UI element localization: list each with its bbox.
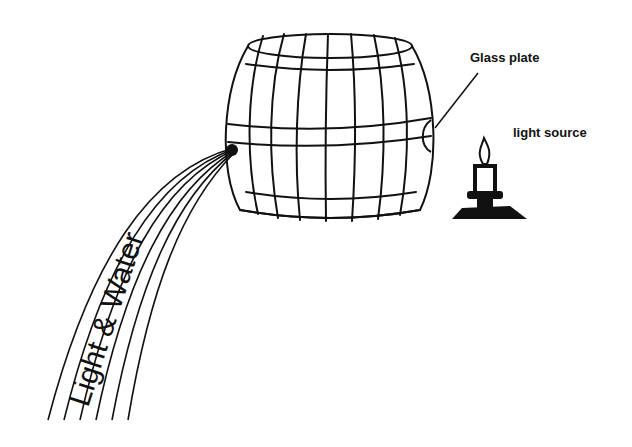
candle-icon xyxy=(452,138,527,219)
light-source-label: light source xyxy=(513,125,587,140)
stream-origin xyxy=(226,144,238,156)
barrel-top-hoop xyxy=(246,64,414,70)
barrel xyxy=(226,34,434,221)
barrel-bottom-hoop xyxy=(246,192,416,199)
barrel-top-rim xyxy=(248,34,412,58)
glass-plate-pointer-line xyxy=(435,73,478,128)
barrel-mid-hoop-upper xyxy=(228,118,431,129)
glass-plate-label: Glass plate xyxy=(470,50,539,65)
barrel-mid-hoop-lower xyxy=(228,136,431,146)
diagram-canvas: Light & Water xyxy=(0,0,632,447)
